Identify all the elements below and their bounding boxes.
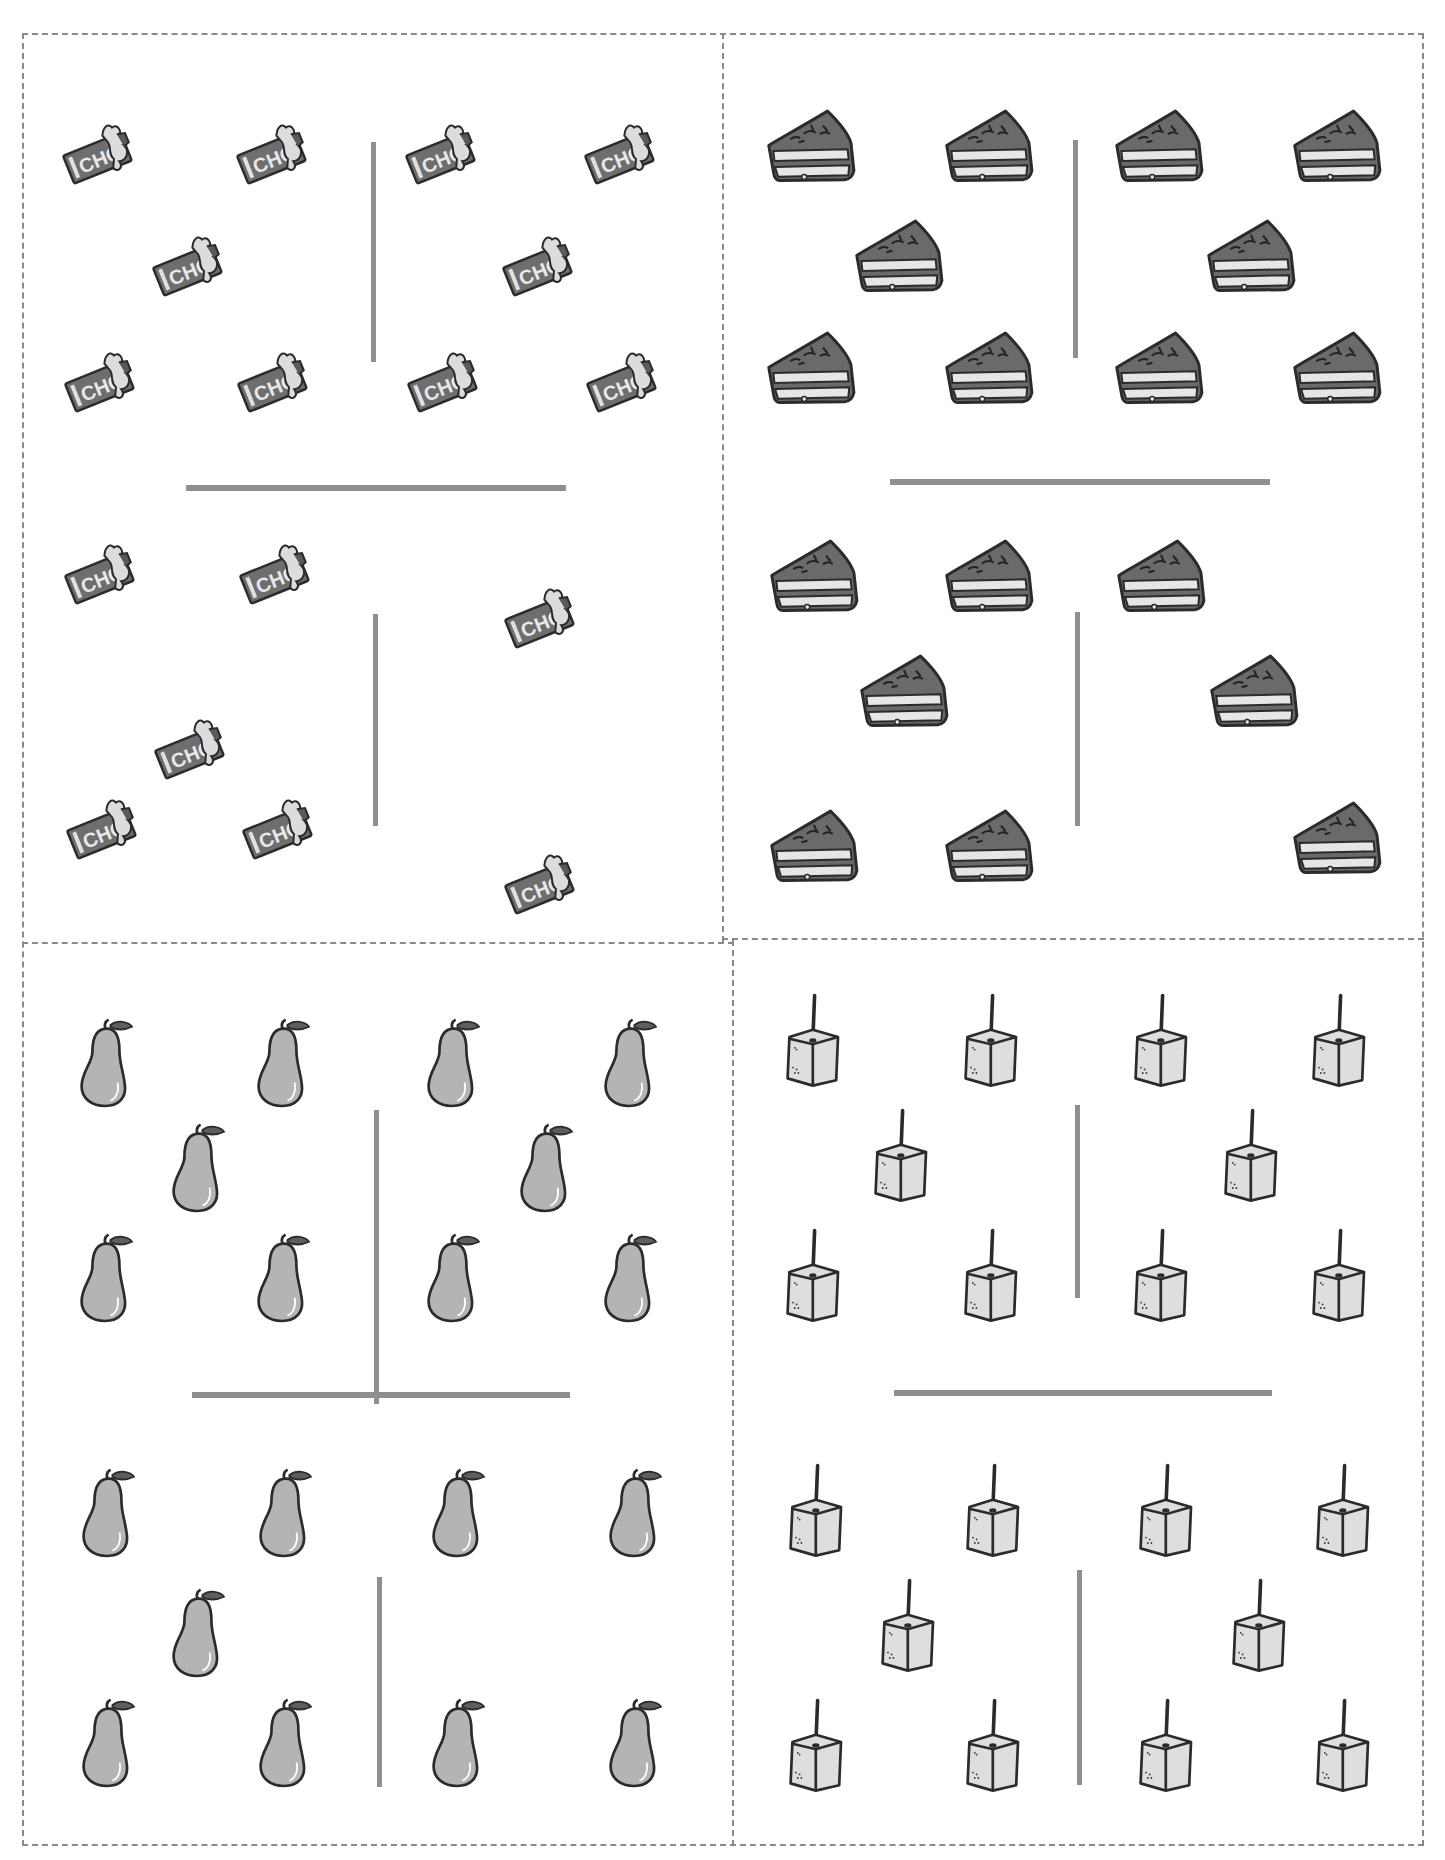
caramel-cube-icon	[940, 1010, 1040, 1100]
caramel-cube-icon	[762, 1010, 862, 1100]
pear-icon	[150, 1125, 250, 1215]
pear-icon	[150, 1125, 250, 1215]
pear-icon	[405, 1020, 505, 1110]
caramel-cube-icon	[1292, 1715, 1392, 1805]
chocolate-bar-icon: CHO	[401, 105, 501, 195]
cake-slice-icon	[940, 535, 1040, 625]
pear-icon	[582, 1020, 682, 1110]
pear-icon	[150, 1590, 250, 1680]
cake-slice-icon	[940, 105, 1040, 195]
pear-icon	[405, 1235, 505, 1325]
divider-horizontal	[890, 479, 1270, 485]
cake-slice-icon	[1112, 535, 1212, 625]
caramel-cube-icon	[1110, 1245, 1210, 1335]
caramel-cube-icon	[942, 1715, 1042, 1805]
chocolate-bar-icon: CHO	[580, 105, 680, 195]
pear-icon	[237, 1470, 337, 1560]
chocolate-bar-icon: CHO	[401, 105, 501, 195]
divider-vertical	[1075, 612, 1080, 826]
divider-vertical	[371, 142, 376, 362]
chocolate-bar-icon: CHO	[60, 525, 160, 615]
cake-slice-icon	[765, 535, 865, 625]
caramel-cube-icon	[1288, 1010, 1388, 1100]
chocolate-bar-icon: CHO	[500, 835, 600, 925]
cake-slice-icon	[855, 650, 955, 740]
cut-line-vertical-top	[722, 33, 724, 942]
cake-slice-icon	[940, 105, 1040, 195]
cut-line-horizontal-right	[722, 938, 1424, 940]
caramel-cube-icon	[1110, 1010, 1210, 1100]
chocolate-bar-icon: CHO	[498, 217, 598, 307]
caramel-cube-icon	[765, 1480, 865, 1570]
caramel-cube-icon	[857, 1595, 957, 1685]
divider-vertical	[1077, 1570, 1082, 1785]
chocolate-bar-icon: CHO	[582, 333, 682, 423]
chocolate-bar-icon: CHO	[62, 780, 162, 870]
chocolate-bar-icon: CHO	[232, 105, 332, 195]
caramel-cube-icon	[1208, 1595, 1308, 1685]
chocolate-bar-icon: CHO	[403, 333, 503, 423]
cake-slice-icon	[855, 650, 955, 740]
divider-horizontal	[192, 1392, 570, 1398]
chocolate-bar-icon: CHO	[500, 835, 600, 925]
chocolate-bar-icon: CHO	[235, 525, 335, 615]
cake-slice-icon	[1202, 215, 1302, 305]
cake-slice-icon	[850, 215, 950, 305]
divider-vertical	[1073, 140, 1078, 358]
chocolate-bar-icon: CHO	[62, 780, 162, 870]
divider-horizontal	[186, 485, 566, 491]
caramel-cube-icon	[762, 1245, 862, 1335]
pear-icon	[60, 1470, 160, 1560]
pear-icon	[587, 1700, 687, 1790]
caramel-cube-icon	[940, 1245, 1040, 1335]
chocolate-bar-icon: CHO	[403, 333, 503, 423]
pear-icon	[405, 1020, 505, 1110]
caramel-cube-icon	[850, 1125, 950, 1215]
cake-slice-icon	[850, 215, 950, 305]
caramel-cube-icon	[1200, 1125, 1300, 1215]
pear-icon	[498, 1125, 598, 1215]
cake-slice-icon	[762, 105, 862, 195]
cake-slice-icon	[1110, 327, 1210, 417]
worksheet-page: CHO CHO CHO CHO	[0, 0, 1445, 1860]
cake-slice-icon	[765, 805, 865, 895]
caramel-cube-icon	[940, 1010, 1040, 1100]
caramel-cube-icon	[942, 1715, 1042, 1805]
caramel-cube-icon	[1115, 1715, 1215, 1805]
cake-slice-icon	[1202, 215, 1302, 305]
caramel-cube-icon	[762, 1010, 862, 1100]
cake-slice-icon	[762, 105, 862, 195]
divider-vertical	[374, 1110, 379, 1404]
cake-slice-icon	[1110, 105, 1210, 195]
pear-icon	[235, 1235, 335, 1325]
chocolate-bar-icon: CHO	[498, 217, 598, 307]
pear-icon	[58, 1020, 158, 1110]
caramel-cube-icon	[765, 1715, 865, 1805]
cake-slice-icon	[1288, 797, 1388, 887]
caramel-cube-icon	[1115, 1715, 1215, 1805]
pear-icon	[58, 1235, 158, 1325]
pear-icon	[60, 1470, 160, 1560]
caramel-cube-icon	[762, 1245, 862, 1335]
pear-icon	[237, 1700, 337, 1790]
pear-icon	[237, 1700, 337, 1790]
cake-slice-icon	[940, 805, 1040, 895]
pear-icon	[60, 1700, 160, 1790]
cut-line-vertical-bottom	[732, 940, 734, 1846]
cake-slice-icon	[762, 327, 862, 417]
caramel-cube-icon	[940, 1245, 1040, 1335]
pear-icon	[235, 1020, 335, 1110]
cake-slice-icon	[1110, 105, 1210, 195]
caramel-cube-icon	[857, 1595, 957, 1685]
cake-slice-icon	[1288, 327, 1388, 417]
chocolate-bar-icon: CHO	[58, 105, 158, 195]
pear-icon	[410, 1700, 510, 1790]
caramel-cube-icon	[1200, 1125, 1300, 1215]
caramel-cube-icon	[942, 1480, 1042, 1570]
cake-slice-icon	[762, 327, 862, 417]
cake-slice-icon	[940, 805, 1040, 895]
chocolate-bar-icon: CHO	[60, 525, 160, 615]
chocolate-bar-icon: CHO	[500, 569, 600, 659]
divider-horizontal	[894, 1390, 1272, 1396]
chocolate-bar-icon: CHO	[148, 217, 248, 307]
